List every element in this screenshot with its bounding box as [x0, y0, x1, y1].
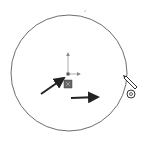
- sketch-tool-label: circle: [0, 0, 2, 1]
- sketch-point: [84, 10, 86, 12]
- horizontal-arrow: [71, 97, 98, 98]
- vertical-arrow: [41, 78, 64, 94]
- origin-icon: [67, 53, 81, 76]
- sketch-canvas[interactable]: [0, 0, 150, 146]
- center-point-icon[interactable]: [64, 80, 72, 88]
